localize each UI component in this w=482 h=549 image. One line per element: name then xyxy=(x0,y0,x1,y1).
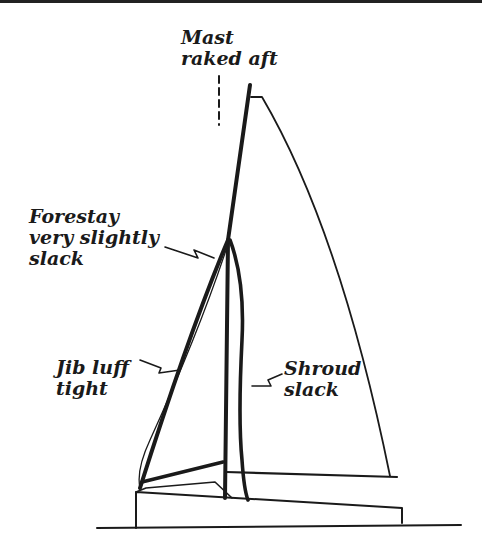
forestay-label: Forestay very slightly slack xyxy=(29,206,159,269)
mainsail-leech xyxy=(251,97,390,476)
boom xyxy=(226,472,397,477)
jib-pointer-arrow xyxy=(140,360,180,373)
forestay-label-line3: slack xyxy=(29,248,159,269)
mast-label-line2: raked aft xyxy=(181,48,278,69)
shroud xyxy=(230,240,248,500)
shroud-label-line2: slack xyxy=(284,379,361,400)
jib-label-line1: Jib luff xyxy=(56,357,129,378)
mast-label: Mast raked aft xyxy=(181,27,278,69)
mast xyxy=(225,85,250,498)
forestay-label-line2: very slightly xyxy=(29,227,159,248)
forestay-pointer-arrow xyxy=(165,247,214,258)
jib-foot xyxy=(142,462,223,482)
waterline xyxy=(97,525,461,528)
forestay xyxy=(140,240,228,488)
jib-label-line2: tight xyxy=(56,378,129,399)
shroud-label-line1: Shroud xyxy=(284,358,361,379)
mast-label-line1: Mast xyxy=(181,27,278,48)
sailboat-rigging-diagram xyxy=(0,0,482,549)
shroud-pointer-arrow xyxy=(252,374,282,386)
hull xyxy=(136,492,402,528)
shroud-label: Shroud slack xyxy=(284,358,361,400)
forestay-label-line1: Forestay xyxy=(29,206,159,227)
jib-luff-label: Jib luff tight xyxy=(56,357,129,399)
